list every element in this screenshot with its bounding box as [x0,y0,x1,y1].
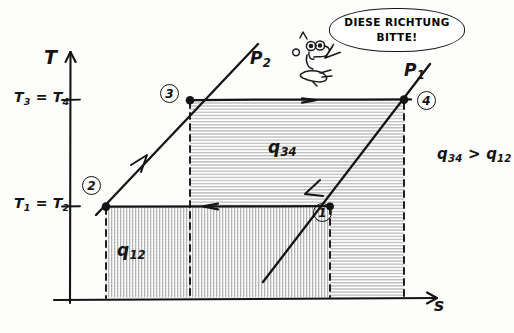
tick-label-t3-t4: T3 = T4 [14,89,69,107]
axis-label-entropy: s [434,295,444,315]
isobar-label-p1: P1 [404,60,425,82]
state-point-label-2: 2 [82,176,101,195]
axis-label-temperature: T [44,46,57,68]
ts-diagram-canvas: DIESE RICHTUNG BITTE! T s T3 = T4 T1 = T… [0,0,514,333]
isobar-label-p2: P2 [250,48,271,70]
inequality-annotation: q34 > q12 [437,145,512,164]
area-label-q12: q12 [117,240,146,262]
state-point-label-4: 4 [417,91,436,110]
area-label-q34: q34 [268,137,297,159]
state-point-label-1: 1 [313,203,332,222]
speech-bubble-tail [325,44,341,58]
state-point-label-3: 3 [160,84,179,103]
tick-label-t1-t2: T1 = T2 [14,195,69,213]
